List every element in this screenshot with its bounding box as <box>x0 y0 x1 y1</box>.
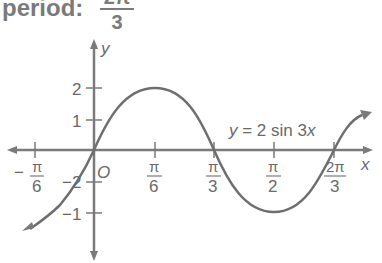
equation-label: y = 2 sin 3x <box>228 121 316 140</box>
svg-text:6: 6 <box>149 177 158 196</box>
curve-left-arrow-icon <box>22 222 34 231</box>
svg-text:−: − <box>14 163 24 182</box>
svg-text:3: 3 <box>330 177 339 196</box>
svg-text:π: π <box>268 158 278 175</box>
svg-text:2π: 2π <box>326 158 345 175</box>
origin-label: O <box>97 163 110 182</box>
y-tick-1: 1 <box>72 112 81 131</box>
svg-text:3: 3 <box>208 177 217 196</box>
x-axis-label: x <box>360 155 370 174</box>
y-tick-neg1: −1 <box>62 205 81 224</box>
svg-text:π: π <box>208 158 218 175</box>
svg-text:2: 2 <box>268 177 277 196</box>
svg-text:6: 6 <box>32 177 41 196</box>
y-tick-2: 2 <box>72 80 81 99</box>
y-tick-neg2: −2 <box>62 173 81 192</box>
y-axis-label: y <box>100 39 111 58</box>
sine-graph: y x O 2 1 −1 −2 − π 6 π 6 π 3 π 2 2π 3 y… <box>0 0 382 263</box>
svg-text:π: π <box>32 158 42 175</box>
svg-text:π: π <box>149 158 159 175</box>
